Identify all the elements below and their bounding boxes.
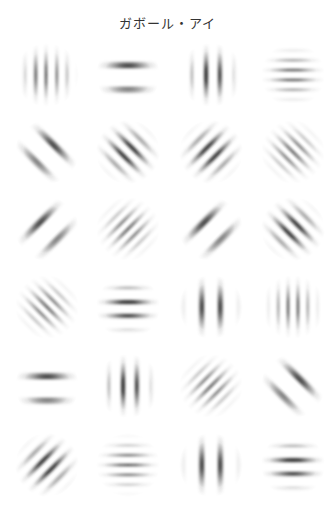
gabor-stripes xyxy=(96,354,160,418)
gabor-stripes xyxy=(96,275,160,339)
gabor-stripes xyxy=(261,433,325,497)
gabor-patch-diagonal-slash xyxy=(15,433,79,497)
gabor-patch-horizontal xyxy=(96,275,160,339)
gabor-patch-diagonal-backslash xyxy=(15,120,79,184)
gabor-patch-diagonal-slash xyxy=(179,197,243,261)
gabor-stripes xyxy=(96,43,160,107)
gabor-patch-vertical xyxy=(15,43,79,107)
gabor-patch-vertical xyxy=(179,433,243,497)
gabor-patch-diagonal-slash xyxy=(96,197,160,261)
gabor-patch-diagonal-backslash xyxy=(15,275,79,339)
gabor-patch-diagonal-slash xyxy=(179,120,243,184)
gabor-patch-diagonal-backslash xyxy=(96,120,160,184)
gabor-stripes xyxy=(179,433,243,497)
gabor-stripes xyxy=(261,275,325,339)
gabor-stripes xyxy=(248,341,334,432)
gabor-patch-vertical xyxy=(179,43,243,107)
gabor-stripes xyxy=(166,184,257,275)
gabor-patch-vertical xyxy=(96,354,160,418)
gabor-patch-horizontal xyxy=(96,433,160,497)
gabor-stripes xyxy=(166,341,257,432)
gabor-stripes xyxy=(179,43,243,107)
gabor-stripes xyxy=(15,43,79,107)
gabor-patch-diagonal-slash xyxy=(179,354,243,418)
gabor-patch-horizontal xyxy=(261,43,325,107)
gabor-patch-diagonal-backslash xyxy=(261,354,325,418)
gabor-patch-vertical xyxy=(179,275,243,339)
gabor-patch-diagonal-backslash xyxy=(261,120,325,184)
gabor-stripes xyxy=(2,420,93,509)
gabor-patch-horizontal xyxy=(261,433,325,497)
gabor-stripes xyxy=(261,43,325,107)
gabor-patch-diagonal-slash xyxy=(15,197,79,261)
gabor-patch-horizontal xyxy=(15,354,79,418)
gabor-patch-horizontal xyxy=(96,43,160,107)
gabor-stripes xyxy=(248,184,334,275)
gabor-stripes xyxy=(248,107,334,198)
gabor-patch-vertical xyxy=(261,275,325,339)
gabor-stripes xyxy=(179,275,243,339)
gabor-patch-grid xyxy=(0,0,334,509)
gabor-patch-diagonal-backslash xyxy=(261,197,325,261)
gabor-stripes xyxy=(96,433,160,497)
gabor-stripes xyxy=(15,354,79,418)
gabor-stripes xyxy=(2,184,93,275)
gabor-stripes xyxy=(2,262,93,353)
gabor-stripes xyxy=(83,184,174,275)
